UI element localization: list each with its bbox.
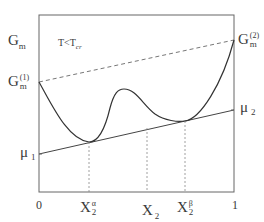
mu1-base: μ xyxy=(20,144,28,160)
gm2-label: G(2)m xyxy=(238,32,259,49)
x2-alpha-label: Xα2 xyxy=(80,200,96,217)
x2-alpha-sub: 2 xyxy=(92,208,97,217)
common-tangent-line xyxy=(39,110,234,154)
free-energy-curve xyxy=(39,40,234,142)
mu2-sub: 2 xyxy=(251,107,256,117)
x-tick-one: 1 xyxy=(232,199,238,211)
x2-beta-label: Xβ2 xyxy=(177,200,193,217)
gm-sub: m xyxy=(19,41,26,51)
gm-base: G xyxy=(8,32,19,48)
free-energy-diagram xyxy=(0,0,264,222)
condition-main: T<T xyxy=(58,37,76,48)
gm1-label: G(1)m xyxy=(8,74,29,91)
x2-sub: 2 xyxy=(155,211,160,221)
x2-beta-base: X xyxy=(177,199,188,215)
gm1-base: G xyxy=(8,73,19,89)
gm2-sub: m xyxy=(250,40,259,49)
temperature-condition: T<Tcr xyxy=(58,38,82,48)
gm1-sub: m xyxy=(20,82,29,91)
x2-label: X2 xyxy=(142,203,159,218)
gm-axis-label: Gm xyxy=(8,33,26,48)
condition-sub: cr xyxy=(76,43,82,51)
x-tick-zero: 0 xyxy=(36,199,42,211)
gm2-base: G xyxy=(238,31,249,47)
mu2-base: μ xyxy=(240,99,248,115)
mu2-label: μ2 xyxy=(240,100,256,115)
x2-beta-sub: 2 xyxy=(189,208,194,217)
x2-alpha-base: X xyxy=(80,199,91,215)
x2-base: X xyxy=(142,202,153,218)
mu1-sub: 1 xyxy=(31,152,36,162)
mu1-label: μ1 xyxy=(20,145,36,160)
